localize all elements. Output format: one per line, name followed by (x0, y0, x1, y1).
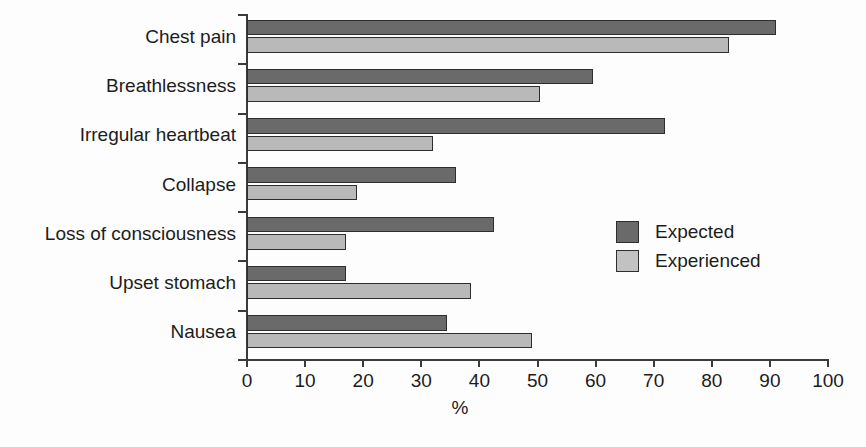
y-axis-tick (238, 63, 246, 65)
legend-item-experienced: Experienced (616, 246, 761, 275)
y-axis-tick (238, 359, 246, 361)
bar-nausea-expected (247, 315, 447, 331)
x-axis-tick (478, 359, 480, 367)
category-label-breathlessness: Breathlessness (106, 75, 236, 97)
x-axis-tick-label-40: 40 (469, 370, 490, 392)
x-axis-tick-label-0: 0 (242, 370, 253, 392)
bar-loss-of-consciousness-experienced (247, 234, 346, 250)
category-label-nausea: Nausea (171, 321, 237, 343)
x-axis-tick (769, 359, 771, 367)
bar-upset-stomach-expected (247, 266, 346, 282)
x-axis-tick-label-30: 30 (411, 370, 432, 392)
x-axis-tick-label-80: 80 (701, 370, 722, 392)
x-axis-tick (595, 359, 597, 367)
x-axis-tick (420, 359, 422, 367)
x-axis-tick (246, 359, 248, 367)
bar-breathlessness-expected (247, 69, 593, 85)
legend-item-expected: Expected (616, 217, 761, 246)
bar-chest-pain-experienced (247, 37, 729, 53)
legend-swatch-experienced (616, 250, 639, 272)
x-axis-tick (653, 359, 655, 367)
x-axis-tick-label-20: 20 (353, 370, 374, 392)
x-axis-tick (362, 359, 364, 367)
bar-chest-pain-expected (247, 20, 776, 36)
x-axis-tick-label-100: 100 (812, 370, 844, 392)
bar-loss-of-consciousness-expected (247, 217, 494, 233)
y-axis-tick (238, 162, 246, 164)
bar-irregular-heartbeat-experienced (247, 136, 433, 152)
legend-label-expected: Expected (655, 221, 734, 243)
x-axis-tick-label-50: 50 (527, 370, 548, 392)
y-axis-tick (238, 260, 246, 262)
x-axis-title-text: % (452, 397, 469, 419)
y-axis-tick (238, 310, 246, 312)
category-label-irregular-heartbeat: Irregular heartbeat (80, 124, 236, 146)
y-axis-tick (238, 14, 246, 16)
x-axis-tick (827, 359, 829, 367)
category-label-chest-pain: Chest pain (145, 26, 236, 48)
x-axis-tick-label-70: 70 (643, 370, 664, 392)
x-axis-line: 0102030405060708090100 (246, 359, 829, 361)
bar-upset-stomach-experienced (247, 283, 471, 299)
bar-irregular-heartbeat-expected (247, 118, 665, 134)
legend-swatch-expected (616, 221, 639, 243)
x-axis-tick (537, 359, 539, 367)
chart-legend: ExpectedExperienced (616, 217, 761, 275)
y-axis-tick (238, 211, 246, 213)
category-label-collapse: Collapse (162, 174, 236, 196)
category-label-upset-stomach: Upset stomach (109, 272, 236, 294)
x-axis-tick-label-90: 90 (759, 370, 780, 392)
y-axis-tick (238, 113, 246, 115)
bar-collapse-expected (247, 167, 456, 183)
bar-collapse-experienced (247, 185, 357, 201)
x-axis-tick-label-60: 60 (585, 370, 606, 392)
bar-breathlessness-experienced (247, 86, 540, 102)
x-axis-title: % (0, 397, 866, 419)
legend-label-experienced: Experienced (655, 250, 761, 272)
x-axis-tick (711, 359, 713, 367)
plot-area (247, 14, 828, 359)
bar-chart: Chest painBreathlessnessIrregular heartb… (0, 0, 866, 447)
category-axis-labels: Chest painBreathlessnessIrregular heartb… (0, 14, 236, 359)
x-axis-tick (304, 359, 306, 367)
x-axis-tick-label-10: 10 (295, 370, 316, 392)
category-label-loss-of-consciousness: Loss of consciousness (45, 223, 236, 245)
bar-nausea-experienced (247, 333, 532, 349)
